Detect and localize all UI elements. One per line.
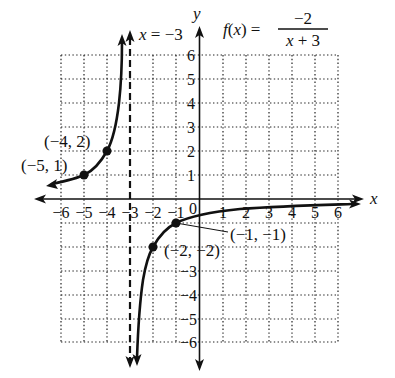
- x-tick: −4: [98, 204, 115, 221]
- point-label: (−1, −1): [230, 225, 286, 244]
- x-tick-labels: −6 −5 −4 −3 −2 −1 0 1 2 3 4 5 6: [52, 200, 342, 221]
- function-numerator: −2: [294, 9, 312, 28]
- y-tick: −5: [180, 311, 197, 328]
- y-tick: 5: [187, 71, 195, 88]
- x-tick: −5: [75, 204, 92, 221]
- x-tick: 2: [242, 204, 250, 221]
- function-name: f(x) =: [223, 20, 260, 39]
- y-tick: 2: [187, 143, 195, 160]
- y-axis-label: y: [191, 4, 201, 23]
- function-denominator: x + 3: [285, 31, 320, 50]
- point-label: (−2, −2): [164, 241, 220, 260]
- leader-line: [176, 223, 228, 232]
- asymptote-label: x = −3: [138, 25, 183, 44]
- x-tick: −6: [52, 204, 69, 221]
- y-tick: 1: [187, 167, 195, 184]
- point-neg5-1: [80, 171, 89, 180]
- y-tick: −6: [180, 334, 197, 351]
- x-tick: −2: [144, 204, 161, 221]
- point-neg4-2: [103, 147, 112, 156]
- x-tick: 6: [334, 204, 342, 221]
- point-label: (−4, 2): [44, 132, 90, 151]
- y-tick: −3: [180, 263, 197, 280]
- y-tick: 3: [187, 119, 195, 136]
- point-label: (−5, 1): [21, 156, 67, 175]
- vertical-asymptote: x = −3: [126, 25, 183, 368]
- y-tick: 4: [187, 95, 195, 112]
- x-tick: −1: [167, 204, 184, 221]
- y-tick: −4: [180, 287, 197, 304]
- y-tick: 6: [187, 47, 195, 64]
- x-axis-label: x: [369, 189, 378, 208]
- origin-label: 0: [189, 200, 197, 217]
- point-neg2-neg2: [149, 243, 158, 252]
- rational-function-graph: x y −6 −5 −4 −3 −2 −1 0 1 2 3 4 5 6 1 2 …: [0, 0, 395, 378]
- function-formula: f(x) = −2 x + 3: [223, 9, 328, 50]
